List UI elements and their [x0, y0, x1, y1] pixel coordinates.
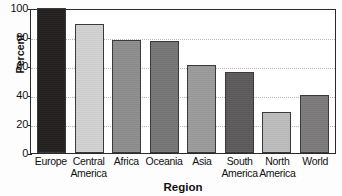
x-tick-label: Africa [107, 156, 145, 182]
bar [150, 41, 179, 153]
x-axis-tick-labels: EuropeCentral AmericaAfricaOceaniaAsiaSo… [30, 156, 336, 182]
bar [187, 65, 216, 153]
y-tick-label: 0 [2, 148, 28, 159]
x-tick-label: Europe [32, 156, 70, 182]
x-tick-label: Central America [70, 156, 108, 182]
bar-series [31, 10, 335, 153]
y-tick-label: 20 [2, 119, 28, 130]
y-tick-label: 40 [2, 90, 28, 101]
y-tick-mark [28, 154, 32, 155]
x-tick-label: Oceania [145, 156, 183, 182]
y-axis-ticks: 020406080100 [0, 0, 28, 196]
x-tick-label: North America [258, 156, 296, 182]
bar [262, 112, 291, 153]
bar [225, 72, 254, 153]
bar [112, 40, 141, 153]
bar [75, 24, 104, 153]
y-tick-label: 80 [2, 32, 28, 43]
x-tick-label: South America [221, 156, 259, 182]
y-tick-label: 100 [2, 3, 28, 14]
x-axis-label: Region [30, 181, 336, 193]
x-tick-label: World [296, 156, 334, 182]
plot-area [30, 9, 336, 154]
y-tick-label: 60 [2, 61, 28, 72]
bar-chart-figure: Percent 020406080100 EuropeCentral Ameri… [0, 0, 342, 196]
bar [37, 8, 66, 153]
bar [300, 95, 329, 153]
x-tick-label: Asia [183, 156, 221, 182]
